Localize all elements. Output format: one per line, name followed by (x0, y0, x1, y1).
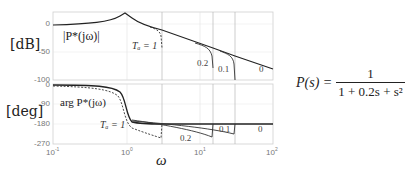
mag-curve-label-0-2: 0.2 (197, 58, 208, 68)
phase-tick-neg90: -90 (38, 99, 50, 108)
phase-curve-label-0: 0 (258, 124, 263, 134)
phase-curve-label-0-2: 0.2 (180, 133, 191, 143)
magnitude-annotation: |P*(jω)| (63, 29, 100, 44)
magnitude-panel (53, 12, 273, 80)
phase-panel (53, 84, 273, 144)
phase-annotation: arg P*(jω) (60, 96, 106, 108)
formula-lhs: P(s) = (296, 75, 332, 91)
magnitude-unit-label: [dB] (10, 36, 40, 52)
formula-fraction: 1 1 + 0.2s + s² (336, 66, 404, 100)
x-tick-1e0: 100 (121, 146, 133, 157)
mag-curve-label-0: 0 (259, 64, 264, 74)
phase-tick-0: 0 (46, 80, 50, 89)
x-tick-1e1: 101 (194, 146, 206, 157)
mag-tick-0: 0 (46, 19, 50, 28)
mag-tick-neg50: -50 (38, 47, 50, 56)
x-axis-label-omega: ω (156, 152, 167, 169)
phase-curve-label-0-1: 0.1 (219, 124, 230, 134)
x-tick-1e-1: 10-1 (46, 146, 59, 157)
mag-curve-label-0-1: 0.1 (218, 64, 229, 74)
transfer-function-formula: P(s) = 1 1 + 0.2s + s² (296, 66, 405, 100)
x-tick-1e2: 102 (266, 146, 278, 157)
phase-curve-label-ta1: Tₐ = 1 (100, 119, 125, 130)
formula-numerator: 1 (365, 66, 376, 82)
mag-curve-label-ta1: Tₐ = 1 (132, 40, 157, 51)
formula-denominator: 1 + 0.2s + s² (336, 82, 404, 100)
phase-tick-neg180: -180 (34, 119, 50, 128)
